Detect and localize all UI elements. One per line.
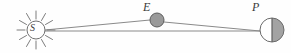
planet-lit-hemisphere: [260, 18, 272, 42]
earth-label: E: [143, 1, 150, 13]
sun-icon: [17, 11, 55, 49]
diagram-canvas: S E P: [0, 0, 291, 53]
planet-body: [260, 18, 284, 42]
planet-label: P: [252, 1, 259, 13]
earth-body: [150, 13, 164, 27]
planet-shadow-hemisphere: [272, 18, 284, 42]
sun-label: S: [30, 23, 35, 33]
earth-disc: [150, 13, 164, 27]
